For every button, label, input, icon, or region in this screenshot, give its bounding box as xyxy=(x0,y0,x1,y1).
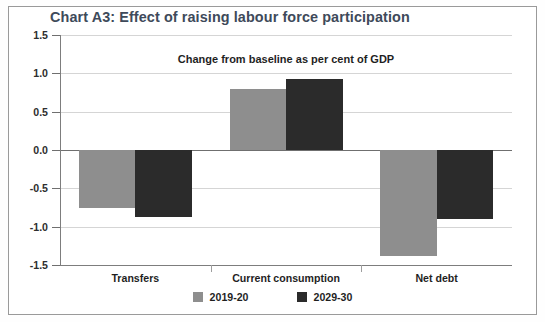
bar xyxy=(79,150,136,208)
category-label: Current consumption xyxy=(232,272,340,284)
y-axis-tick-label: 0.5 xyxy=(33,106,48,118)
category-separator-tick xyxy=(211,265,212,272)
y-axis-tick xyxy=(52,112,60,113)
y-axis-tick xyxy=(52,35,60,36)
chart-title: Chart A3: Effect of raising labour force… xyxy=(50,9,410,25)
bar xyxy=(286,79,343,150)
legend-label: 2029-30 xyxy=(314,291,353,303)
chart-figure: Chart A3: Effect of raising labour force… xyxy=(0,0,545,322)
y-axis-tick-label: -1.0 xyxy=(30,221,48,233)
y-axis-tick xyxy=(52,265,60,266)
y-axis-tick-label: -1.5 xyxy=(30,259,48,271)
legend-swatch-icon xyxy=(193,292,203,302)
legend-item: 2019-20 xyxy=(193,291,249,303)
category-separator-tick xyxy=(361,265,362,272)
y-axis-tick xyxy=(52,150,60,151)
category-label: Net debt xyxy=(415,272,457,284)
gridline xyxy=(60,265,512,266)
bar xyxy=(380,150,437,256)
y-axis-tick xyxy=(52,188,60,189)
chart-subtitle: Change from baseline as per cent of GDP xyxy=(60,53,512,65)
y-axis-tick-label: 0.0 xyxy=(33,144,48,156)
bar xyxy=(437,150,494,219)
y-axis-tick-label: 1.0 xyxy=(33,67,48,79)
chart-legend: 2019-202029-30 xyxy=(0,291,545,303)
legend-swatch-icon xyxy=(297,292,307,302)
y-axis-tick xyxy=(52,73,60,74)
category-label: Transfers xyxy=(111,272,159,284)
y-axis-tick xyxy=(52,227,60,228)
bar xyxy=(230,89,287,150)
y-axis-tick-label: -0.5 xyxy=(30,182,48,194)
bar xyxy=(135,150,192,217)
legend-item: 2029-30 xyxy=(297,291,353,303)
y-axis-tick-label: 1.5 xyxy=(33,29,48,41)
legend-label: 2019-20 xyxy=(210,291,249,303)
